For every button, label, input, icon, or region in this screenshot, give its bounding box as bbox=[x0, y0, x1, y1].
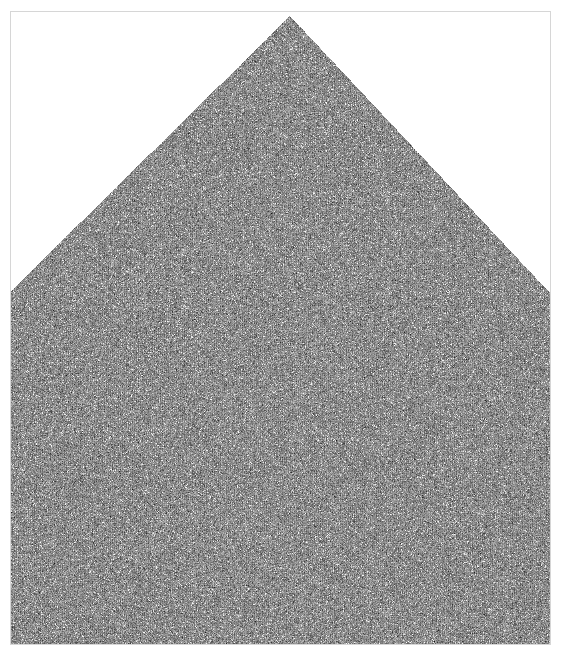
noise-heatmap-canvas bbox=[11, 12, 550, 644]
plot-area bbox=[11, 12, 550, 644]
figure-root: Grayscale noise texture in a pentagonal … bbox=[0, 0, 562, 664]
plot-frame bbox=[10, 11, 551, 645]
